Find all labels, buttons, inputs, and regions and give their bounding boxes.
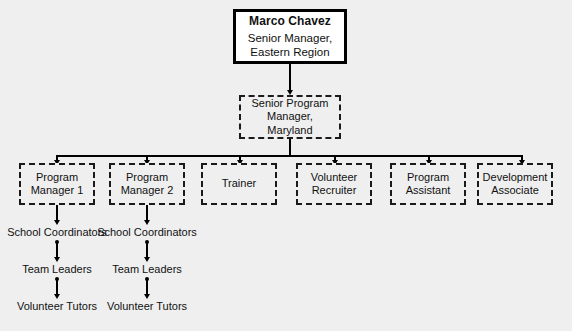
label-school-coordinators-1: School Coordinators — [7, 226, 107, 238]
label-volunteer-tutors-1: Volunteer Tutors — [17, 300, 97, 312]
node-root-marco-chavez[interactable]: Marco Chavez Senior Manager, Eastern Reg… — [233, 9, 347, 64]
node-program-manager-2[interactable]: Program Manager 2 — [109, 163, 185, 205]
node-volunteer-recruiter[interactable]: Volunteer Recruiter — [296, 163, 372, 205]
connector-bus-horizontal — [57, 155, 523, 157]
label-volunteer-tutors-2: Volunteer Tutors — [107, 300, 187, 312]
node-senior-program-manager-maryland[interactable]: Senior Program Manager, Maryland — [239, 95, 341, 139]
node-development-associate[interactable]: Development Associate — [477, 163, 553, 205]
root-person-title: Senior Manager, Eastern Region — [248, 31, 332, 59]
connector-root-to-second — [289, 64, 291, 91]
root-person-name: Marco Chavez — [249, 14, 331, 29]
label-school-coordinators-2: School Coordinators — [97, 226, 197, 238]
arrow-pm2-to-school-coordinators — [144, 220, 150, 225]
node-program-manager-1[interactable]: Program Manager 1 — [19, 163, 95, 205]
arrow-sc2-to-team-leaders — [144, 257, 150, 262]
node-program-assistant[interactable]: Program Assistant — [390, 163, 466, 205]
arrow-tl2-to-volunteer-tutors — [144, 294, 150, 299]
org-chart: Marco Chavez Senior Manager, Eastern Reg… — [0, 0, 572, 331]
arrow-tl1-to-volunteer-tutors — [54, 294, 60, 299]
node-trainer[interactable]: Trainer — [201, 163, 277, 205]
connector-second-to-bus — [289, 139, 291, 156]
label-team-leaders-1: Team Leaders — [22, 263, 92, 275]
label-team-leaders-2: Team Leaders — [112, 263, 182, 275]
arrow-sc1-to-team-leaders — [54, 257, 60, 262]
arrow-pm1-to-school-coordinators — [54, 220, 60, 225]
